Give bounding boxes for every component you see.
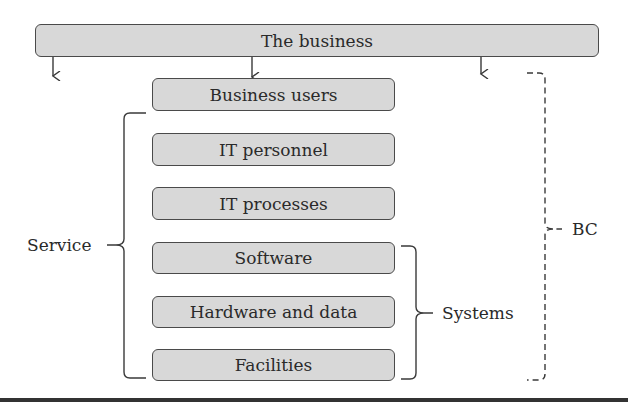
it-personnel-box: IT personnel [152, 133, 395, 166]
business-users-label: Business users [209, 85, 337, 105]
service-label: Service [27, 237, 91, 254]
software-box: Software [152, 242, 395, 274]
business-users-box: Business users [152, 78, 395, 111]
bc-brace-icon [527, 73, 562, 380]
bc-label: BC [572, 221, 598, 238]
it-processes-label: IT processes [219, 194, 328, 214]
software-label: Software [235, 248, 313, 268]
the-business-label: The business [261, 31, 373, 51]
service-brace-icon [107, 113, 146, 378]
bottom-rule [0, 398, 628, 402]
systems-brace-icon [401, 246, 433, 379]
hardware-and-data-box: Hardware and data [152, 296, 395, 328]
it-personnel-label: IT personnel [219, 140, 328, 160]
the-business-box: The business [35, 24, 599, 57]
it-processes-box: IT processes [152, 187, 395, 220]
facilities-label: Facilities [235, 355, 313, 375]
hardware-and-data-label: Hardware and data [190, 302, 358, 322]
systems-label: Systems [442, 305, 514, 322]
facilities-box: Facilities [152, 349, 395, 381]
